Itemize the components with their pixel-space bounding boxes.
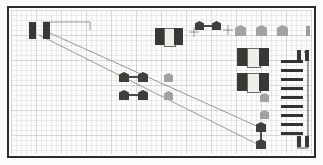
dumbbell-center-lower-left (119, 90, 129, 100)
dumbbell-center-upper-left (119, 72, 129, 82)
vehicle-right-upper-cap-right (259, 48, 269, 66)
dumbbell-bottom-bar (260, 132, 262, 140)
pentagon-right-2 (260, 110, 269, 119)
guide-line-lower (39, 35, 261, 146)
rack-rung (281, 78, 303, 81)
rack-rung (281, 123, 303, 126)
diagram-canvas (9, 8, 314, 156)
pentagon-top-2 (256, 25, 267, 36)
rack-marker-bottom-b (305, 136, 309, 147)
tab-top-right (306, 26, 310, 36)
dumbbell-bottom-bottom (256, 139, 266, 149)
vehicle-right-lower-cap-left (237, 73, 247, 91)
rack-rung (281, 69, 303, 72)
origin-block-left (29, 22, 36, 39)
dumbbell-center-upper-right (138, 72, 148, 82)
dumbbell-center-upper-bar (129, 76, 138, 78)
vehicle-right-upper-cap-left (237, 48, 247, 66)
dumbbell-center-lower-right (138, 90, 148, 100)
pentagon-top-1 (235, 25, 246, 36)
rack-rung (281, 96, 303, 99)
guide-line-upper (43, 30, 261, 128)
pentagon-right-1 (260, 93, 269, 102)
vehicle-top-center-cap-left (155, 28, 164, 45)
vehicle-top-center-cap-right (174, 28, 183, 45)
origin-block-right (43, 22, 50, 39)
figure-root (0, 0, 323, 165)
rack-marker-bottom-a (297, 136, 301, 147)
dumbbell-top-right (212, 21, 221, 30)
pentagon-mid-left-1 (164, 73, 173, 82)
dumbbell-center-lower-bar (129, 94, 138, 96)
rack-rung (281, 132, 303, 135)
dumbbell-bottom-top (256, 122, 266, 132)
rack-rung (281, 87, 303, 90)
rack-marker-top-b (305, 50, 309, 61)
dumbbell-top-left (195, 21, 204, 30)
dumbbell-top-bar (204, 25, 212, 27)
rack-rung (281, 60, 303, 63)
vehicle-right-lower-cap-right (259, 73, 269, 91)
figure-frame (7, 6, 316, 158)
rack-rung (281, 105, 303, 108)
pentagon-top-3 (277, 25, 288, 36)
rack-rung (281, 114, 303, 117)
pentagon-mid-left-2 (164, 91, 173, 100)
